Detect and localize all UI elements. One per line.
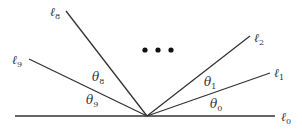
ellipsis-dot-2 [155, 47, 160, 52]
line-label-l9: ℓ9 [12, 53, 22, 69]
ellipsis-dot-1 [142, 47, 147, 52]
line-label-l0: ℓ0 [281, 110, 291, 126]
line-label-l1: ℓ1 [274, 66, 284, 82]
angle-label-theta1: θ1 [204, 75, 216, 91]
ray-l8 [66, 11, 147, 116]
ellipsis-dots [142, 47, 173, 52]
angle-label-theta0: θ0 [210, 97, 222, 113]
ellipsis-dot-3 [168, 47, 173, 52]
line-label-l2: ℓ2 [254, 31, 264, 47]
lines-group [15, 11, 275, 116]
line-label-l8: ℓ8 [50, 5, 60, 21]
ray-l2 [147, 36, 250, 116]
angle-label-theta8: θ8 [92, 70, 104, 86]
angle-label-theta9: θ9 [86, 93, 98, 109]
ray-l9 [29, 59, 147, 116]
angle-fan-diagram: ℓ0ℓ1ℓ2ℓ8ℓ9θ0θ1θ8θ9 [0, 0, 302, 131]
labels-group: ℓ0ℓ1ℓ2ℓ8ℓ9θ0θ1θ8θ9 [12, 5, 291, 126]
